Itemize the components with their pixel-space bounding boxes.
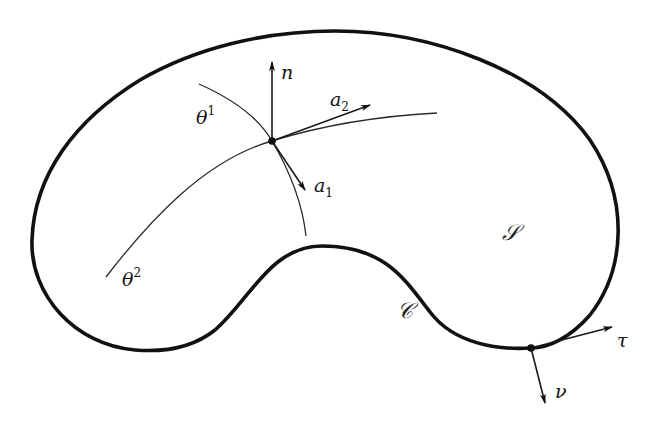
label-tau: τ xyxy=(617,329,628,351)
label-a2: a2 xyxy=(330,88,349,114)
boundary-point xyxy=(527,344,535,352)
label-a1: a1 xyxy=(314,174,333,200)
label-n: n xyxy=(281,61,293,83)
boundary-normal-nu xyxy=(531,348,545,403)
surface-diagram: n a2 a1 θ1 θ2 𝒮 𝒞 τ ν xyxy=(0,0,662,421)
label-boundary-C: 𝒞 xyxy=(397,298,419,323)
surface-point xyxy=(268,137,276,145)
label-nu: ν xyxy=(555,380,567,402)
label-surface-S: 𝒮 xyxy=(502,220,525,245)
base-vector-a2 xyxy=(272,105,370,141)
label-theta2: θ2 xyxy=(122,266,141,290)
label-theta1: θ1 xyxy=(196,104,215,128)
base-vector-a1 xyxy=(272,141,305,190)
